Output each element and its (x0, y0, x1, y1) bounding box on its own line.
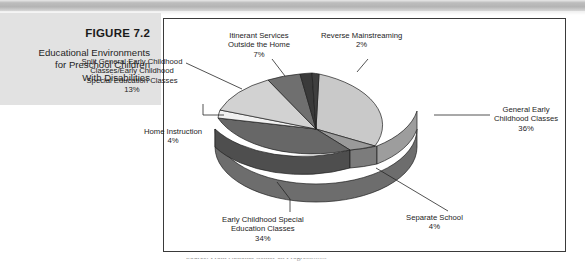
scan-top-band (0, 0, 585, 11)
callout-split-line-2: Classes/Early Childhood (51, 66, 213, 75)
callout-split-line-4: 13% (51, 85, 213, 94)
callout-special-line-1: Early Childhood Special (222, 215, 304, 224)
callout-reverse-line-2: 2% (321, 40, 402, 49)
leader-line-itinerant (272, 59, 285, 76)
leader-line-reverse (357, 59, 368, 72)
source-note: Source: From National Center on Progress… (186, 258, 327, 261)
callout-reverse-line-1: Reverse Mainstreaming (321, 31, 402, 40)
callout-itinerant-line-2: Outside the Home (228, 40, 290, 49)
callout-reverse-mainstreaming: Reverse Mainstreaming 2% (321, 31, 402, 50)
callout-split-line-3: Special Education Classes (51, 76, 213, 85)
chart-frame: Itinerant Services Outside the Home 7% R… (163, 18, 566, 252)
leader-line-separate (376, 168, 448, 211)
callout-home-line-2: 4% (129, 136, 217, 145)
callout-itinerant-line-3: 7% (228, 50, 290, 59)
figure-page: FIGURE 7.2 Educational Environments for … (0, 0, 585, 269)
callout-special-line-3: 34% (222, 234, 304, 243)
callout-general-line-3: 36% (494, 124, 558, 133)
callout-general-early-childhood: General Early Childhood Classes 36% (494, 105, 558, 133)
pie-top-face (218, 73, 383, 154)
callout-split-general-early-childhood: Split General Early Childhood Classes/Ea… (51, 57, 213, 94)
callout-home-line-1: Home Instruction (129, 127, 217, 136)
figure-number: FIGURE 7.2 (6, 27, 150, 40)
callout-split-line-1: Split General Early Childhood (51, 57, 213, 66)
source-note-strip: Source: From National Center on Progress… (186, 258, 486, 269)
callout-separate-line-2: 4% (406, 222, 463, 231)
callout-special-line-2: Education Classes (222, 224, 304, 233)
callout-itinerant-services: Itinerant Services Outside the Home 7% (228, 31, 290, 59)
callout-separate-school: Separate School 4% (406, 213, 463, 232)
callout-itinerant-line-1: Itinerant Services (228, 31, 290, 40)
callout-early-childhood-special: Early Childhood Special Education Classe… (222, 215, 304, 243)
callout-general-line-2: Childhood Classes (494, 114, 558, 123)
callout-separate-line-1: Separate School (406, 213, 463, 222)
callout-home-instruction: Home Instruction 4% (129, 127, 217, 146)
callout-general-line-1: General Early (494, 105, 558, 114)
